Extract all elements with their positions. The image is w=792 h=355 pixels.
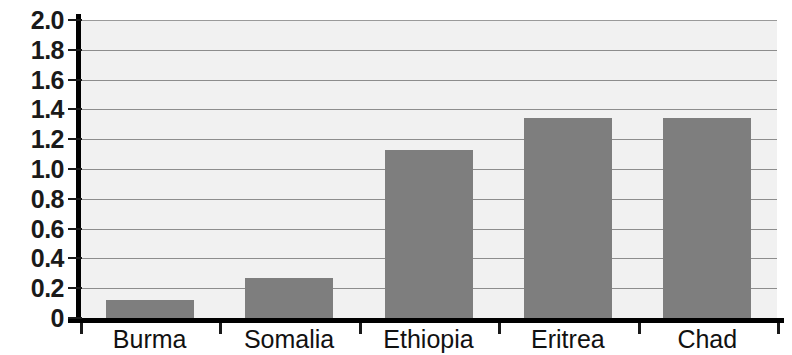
x-axis-tick-label: Burma	[113, 326, 187, 352]
x-axis-line	[68, 318, 784, 323]
bar	[106, 300, 194, 318]
y-axis-tick-mark	[68, 79, 82, 81]
bar-chart: 2.01.81.61.41.21.00.80.60.40.20 BurmaSom…	[0, 0, 792, 355]
y-axis-tick-mark	[68, 317, 82, 319]
bar	[524, 118, 612, 318]
y-axis-tick-mark	[68, 287, 82, 289]
y-axis-tick-label: 0.6	[31, 216, 64, 241]
y-axis-tick-mark	[68, 198, 82, 200]
x-axis-tick-label: Ethiopia	[383, 326, 473, 352]
y-axis-tick-label: 1.8	[31, 37, 64, 62]
y-axis-tick-mark	[68, 228, 82, 230]
x-axis-tick-label: Somalia	[244, 326, 334, 352]
y-axis-tick-mark	[68, 138, 82, 140]
y-axis-tick-label: 1.6	[31, 67, 64, 92]
y-axis-tick-label: 0	[51, 306, 64, 331]
x-axis-tick-mark	[777, 323, 780, 334]
bar	[663, 118, 751, 318]
y-axis-tick-label: 2.0	[31, 8, 64, 33]
y-axis-tick-label: 1.4	[31, 97, 64, 122]
y-axis-tick-mark	[68, 168, 82, 170]
bar	[385, 150, 473, 318]
x-axis-tick-label: Chad	[677, 326, 737, 352]
bars	[80, 20, 777, 318]
y-axis-tick-mark	[68, 19, 82, 21]
y-axis-tick-mark	[68, 108, 82, 110]
y-axis-tick-label: 0.8	[31, 186, 64, 211]
bar	[245, 278, 333, 318]
y-axis-tick-label: 1.2	[31, 127, 64, 152]
y-axis-tick-mark	[68, 49, 82, 51]
y-axis-tick-label: 0.2	[31, 276, 64, 301]
y-axis-tick-label: 0.4	[31, 246, 64, 271]
y-axis-tick-mark	[68, 257, 82, 259]
x-axis-tick-label: Eritrea	[531, 326, 605, 352]
plot-area	[80, 20, 777, 318]
y-axis-tick-labels: 2.01.81.61.41.21.00.80.60.40.20	[0, 0, 72, 355]
x-axis-category-labels: BurmaSomaliaEthiopiaEritreaChad	[80, 326, 777, 355]
y-axis-tick-label: 1.0	[31, 157, 64, 182]
